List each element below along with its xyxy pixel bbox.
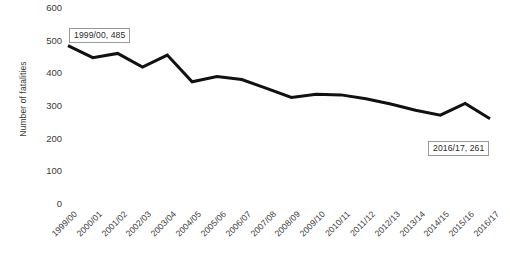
last-point-label: 2016/17, 261 (428, 141, 489, 156)
first-point-label: 1999/00, 485 (69, 28, 130, 43)
line-chart: Number of fatalities 0100200300400500600… (0, 0, 510, 256)
